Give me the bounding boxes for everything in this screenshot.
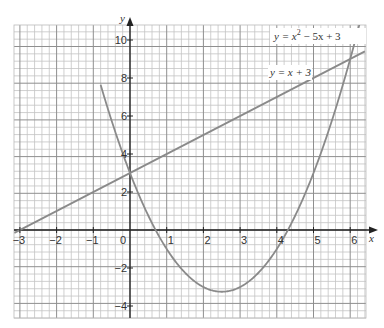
line-equation-label: y = x + 3	[268, 65, 312, 80]
x-tick-label: −2	[49, 234, 62, 246]
eq2-text: y = x + 3	[269, 66, 312, 78]
x-tick-label: −3	[13, 234, 26, 246]
x-tick-label: 2	[204, 234, 210, 246]
x-tick-label: 3	[241, 234, 247, 246]
x-tick-label: −1	[86, 234, 99, 246]
y-tick-label: 2	[121, 186, 127, 198]
svg-text:y = x2 − 5x + 3: y = x2 − 5x + 3	[273, 28, 341, 42]
x-tick-label: 1	[168, 234, 174, 246]
x-tick-label: 5	[315, 234, 321, 246]
parabola-equation-label: y = x2 − 5x + 3	[270, 28, 366, 44]
x-tick-label: 4	[278, 234, 284, 246]
y-tick-label: 6	[121, 110, 127, 122]
y-tick-label: 4	[121, 148, 127, 160]
graph-chart: −3−2−10123456−4−2246810 x y y = x2 − 5x …	[0, 0, 384, 328]
x-tick-label: 6	[351, 234, 357, 246]
eq1-post: − 5x + 3	[301, 30, 341, 42]
eq1-pre: y = x	[273, 30, 297, 42]
y-axis-label: y	[119, 12, 125, 24]
y-tick-label: 8	[121, 72, 127, 84]
y-axis-arrow-icon	[127, 17, 134, 26]
y-tick-label: 10	[115, 34, 127, 46]
y-tick-label: −2	[114, 262, 127, 274]
x-tick-label: 0	[120, 234, 126, 246]
x-axis-label: x	[368, 232, 374, 244]
y-tick-label: −4	[114, 300, 127, 312]
